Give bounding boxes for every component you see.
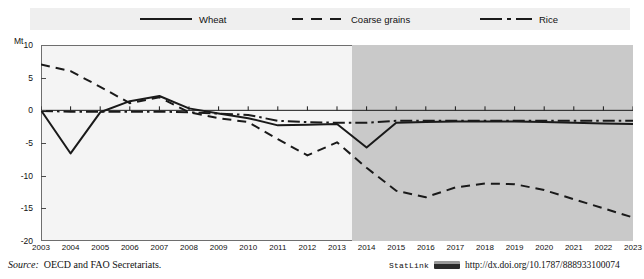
y-axis-tick [41,208,46,209]
x-axis-tick-label: 2016 [417,243,435,252]
statlink-barcode-icon [434,261,460,269]
wheat-legend-key-icon [140,14,192,24]
x-axis-tick-label: 2014 [358,243,376,252]
x-axis-tick-label: 2004 [62,243,80,252]
y-axis-tick [41,143,46,144]
x-axis-tick-label: 2006 [121,243,139,252]
statlink[interactable]: StatLink http://dx.doi.org/10.1787/88893… [389,260,620,270]
x-axis-tick-label: 2010 [239,243,257,252]
plot-area [41,45,633,241]
legend-label-rice: Rice [539,14,558,25]
series-line-rice [41,111,633,123]
x-axis-tick-label: 2007 [150,243,168,252]
legend-label-coarse-grains: Coarse grains [351,14,410,25]
legend-entry-coarse-grains: Coarse grains [292,14,410,25]
x-axis-tick-label: 2019 [506,243,524,252]
y-axis-tick-label: 5 [28,73,33,83]
x-axis-tick-label: 2017 [446,243,464,252]
series-line-wheat [41,96,633,153]
y-axis-labels: 1050-5-10-15-20 [0,45,38,241]
source-label: Source: [8,259,39,270]
x-axis-labels: 2003200420052006200720082009201020112012… [41,243,633,257]
y-axis-tick [41,78,46,79]
coarse-grains-legend-key-icon [292,14,344,24]
source-note: Source: OECD and FAO Secretariats. [8,259,161,270]
x-axis-tick-label: 2013 [328,243,346,252]
chart-screenshot: Wheat Coarse grains Rice Mt 1050-5-10-15… [0,0,644,279]
y-axis-tick-label: -15 [21,203,33,213]
legend-entry-rice: Rice [480,14,558,25]
x-axis-tick-label: 2005 [91,243,109,252]
chart-legend: Wheat Coarse grains Rice [30,8,630,30]
y-axis-tick-label: 10 [24,40,33,50]
x-axis-tick-label: 2018 [476,243,494,252]
x-axis-tick-label: 2022 [594,243,612,252]
series-line-coarse-grains [41,65,633,218]
legend-entry-wheat: Wheat [140,14,226,25]
y-axis-tick-label: 0 [28,105,33,115]
source-text: OECD and FAO Secretariats. [44,259,162,270]
chart-lines [41,45,633,241]
x-axis-tick-label: 2023 [624,243,642,252]
x-axis-tick-label: 2011 [269,243,286,252]
x-axis-tick-label: 2012 [298,243,316,252]
x-axis-tick-label: 2008 [180,243,198,252]
statlink-url[interactable]: http://dx.doi.org/10.1787/888933100074 [465,260,620,270]
x-axis-tick-label: 2009 [210,243,228,252]
y-axis-tick-label: -10 [21,171,33,181]
y-axis-tick-label: -5 [25,138,33,148]
legend-label-wheat: Wheat [199,14,226,25]
y-axis-tick [41,176,46,177]
statlink-label: StatLink [389,261,429,270]
x-axis-tick-label: 2021 [565,243,583,252]
x-axis-tick-label: 2020 [535,243,553,252]
y-axis-tick [41,110,46,111]
rice-legend-key-icon [480,14,532,24]
x-axis-tick-label: 2003 [32,243,50,252]
x-axis-tick-label: 2015 [387,243,405,252]
